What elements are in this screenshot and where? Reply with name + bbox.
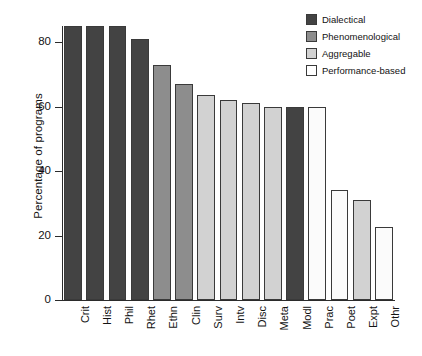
bar-intv [220,100,238,300]
y-tick-mark [55,107,62,108]
x-tick-label-text: Clin [190,306,202,352]
x-tick-label-text: Rhet [145,306,157,352]
x-tick-label-text: Crit [79,306,91,352]
legend-item-phenomenological: Phenomenological [306,29,418,44]
x-tick-label-prac: Prac [323,306,335,352]
bar-surv [197,95,215,300]
legend-swatch-icon [306,31,317,42]
y-tick-mark [55,300,62,301]
x-tick-label-poet: Poet [345,306,357,352]
y-tick-label: 40 [13,164,51,176]
y-tick-mark [55,236,62,237]
bar-chart: Percentage of programs 020406080 CritHis… [0,0,422,356]
x-tick-label-disc: Disc [256,306,268,352]
x-tick-label-text: Othr [389,306,401,352]
legend-label: Performance-based [322,65,405,76]
y-axis-title: Percentage of programs [32,56,44,256]
y-tick-mark [55,42,62,43]
x-tick-label-text: Hist [101,306,113,352]
x-tick-label-text: Poet [345,306,357,352]
legend-item-dialectical: Dialectical [306,12,418,27]
bar-ethn [153,65,171,300]
legend-swatch-icon [306,65,317,76]
x-tick-label-text: Phil [123,306,135,352]
x-tick-label-othr: Othr [389,306,401,352]
bar-prac [308,107,326,300]
x-tick-label-text: Expt [367,306,379,352]
bar-phil [109,26,127,300]
bar-poet [331,190,349,300]
legend-label: Aggregable [322,48,371,59]
x-tick-label-intv: Intv [234,306,246,352]
bar-othr [375,227,393,300]
x-tick-label-hist: Hist [101,306,113,352]
bar-crit [64,26,82,300]
x-tick-label-modl: Modl [301,306,313,352]
legend-item-aggregable: Aggregable [306,46,418,61]
y-tick-mark [55,171,62,172]
x-tick-label-text: Modl [301,306,313,352]
bar-expt [353,200,371,300]
x-tick-label-ethn: Ethn [167,306,179,352]
x-tick-label-expt: Expt [367,306,379,352]
chart-legend: DialecticalPhenomenologicalAggregablePer… [306,12,418,80]
legend-swatch-icon [306,48,317,59]
x-axis-line [62,300,395,301]
x-tick-label-text: Meta [278,306,290,352]
x-tick-label-text: Ethn [167,306,179,352]
x-tick-label-meta: Meta [278,306,290,352]
y-tick-label: 80 [13,35,51,47]
legend-label: Dialectical [322,14,365,25]
legend-label: Phenomenological [322,31,400,42]
x-tick-label-text: Intv [234,306,246,352]
x-tick-label-clin: Clin [190,306,202,352]
x-tick-label-crit: Crit [79,306,91,352]
y-tick-label: 0 [13,293,51,305]
bar-modl [286,107,304,300]
bar-hist [86,26,104,300]
legend-swatch-icon [306,14,317,25]
x-tick-label-text: Prac [323,306,335,352]
y-tick-label: 20 [13,229,51,241]
x-tick-label-text: Disc [256,306,268,352]
y-tick-label: 60 [13,100,51,112]
bar-clin [175,84,193,300]
bar-disc [242,103,260,300]
x-tick-label-surv: Surv [212,306,224,352]
x-tick-label-rhet: Rhet [145,306,157,352]
x-tick-label-phil: Phil [123,306,135,352]
x-tick-label-text: Surv [212,306,224,352]
bar-meta [264,107,282,300]
legend-item-performance-based: Performance-based [306,63,418,78]
bar-rhet [131,39,149,300]
